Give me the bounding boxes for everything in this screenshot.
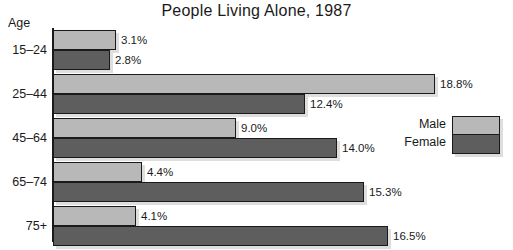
- bar-group: 25–4418.8%12.4%: [0, 74, 513, 114]
- category-label: 15–24: [12, 43, 53, 57]
- bar-value-label: 2.8%: [110, 54, 141, 66]
- bar-value-label: 14.0%: [337, 142, 375, 154]
- category-label: 75+: [26, 219, 53, 233]
- bar-group: 75+4.1%16.5%: [0, 206, 513, 246]
- legend-swatch-female: [453, 135, 499, 153]
- bar-row: 12.4%: [53, 94, 513, 114]
- bar-female: [53, 138, 337, 158]
- bar-female: [53, 50, 110, 70]
- category-label: 25–44: [12, 87, 53, 101]
- bar-row: 3.1%: [53, 30, 513, 50]
- bar-group: 15–243.1%2.8%: [0, 30, 513, 70]
- bar-female: [53, 182, 364, 202]
- bar-value-label: 12.4%: [305, 98, 343, 110]
- legend-label-male: Male: [398, 117, 446, 131]
- bar-value-label: 15.3%: [364, 186, 402, 198]
- legend-label-female: Female: [398, 135, 446, 149]
- chart-title: People Living Alone, 1987: [0, 2, 513, 20]
- bar-row: 4.4%: [53, 162, 513, 182]
- bar-female: [53, 94, 305, 114]
- bar-male: [53, 162, 142, 182]
- bar-value-label: 9.0%: [236, 122, 267, 134]
- legend-swatch-box: [452, 116, 500, 154]
- bar-value-label: 4.4%: [142, 166, 173, 178]
- legend-swatch-male: [453, 117, 499, 135]
- bar-male: [53, 206, 136, 226]
- bar-value-label: 3.1%: [116, 34, 147, 46]
- category-label: 45–64: [12, 131, 53, 145]
- chart-container: People Living Alone, 1987 Age 15–243.1%2…: [0, 0, 513, 250]
- bar-female: [53, 226, 388, 246]
- bar-value-label: 4.1%: [136, 210, 167, 222]
- bar-value-label: 16.5%: [388, 230, 426, 242]
- bar-male: [53, 118, 236, 138]
- bar-row: 18.8%: [53, 74, 513, 94]
- bar-group: 65–744.4%15.3%: [0, 162, 513, 202]
- category-label: 65–74: [12, 175, 53, 189]
- bar-value-label: 18.8%: [435, 78, 473, 90]
- bar-row: 2.8%: [53, 50, 513, 70]
- bar-row: 16.5%: [53, 226, 513, 246]
- bar-male: [53, 74, 435, 94]
- bar-male: [53, 30, 116, 50]
- bar-row: 4.1%: [53, 206, 513, 226]
- chart-legend: Male Female: [398, 116, 503, 156]
- bar-row: 15.3%: [53, 182, 513, 202]
